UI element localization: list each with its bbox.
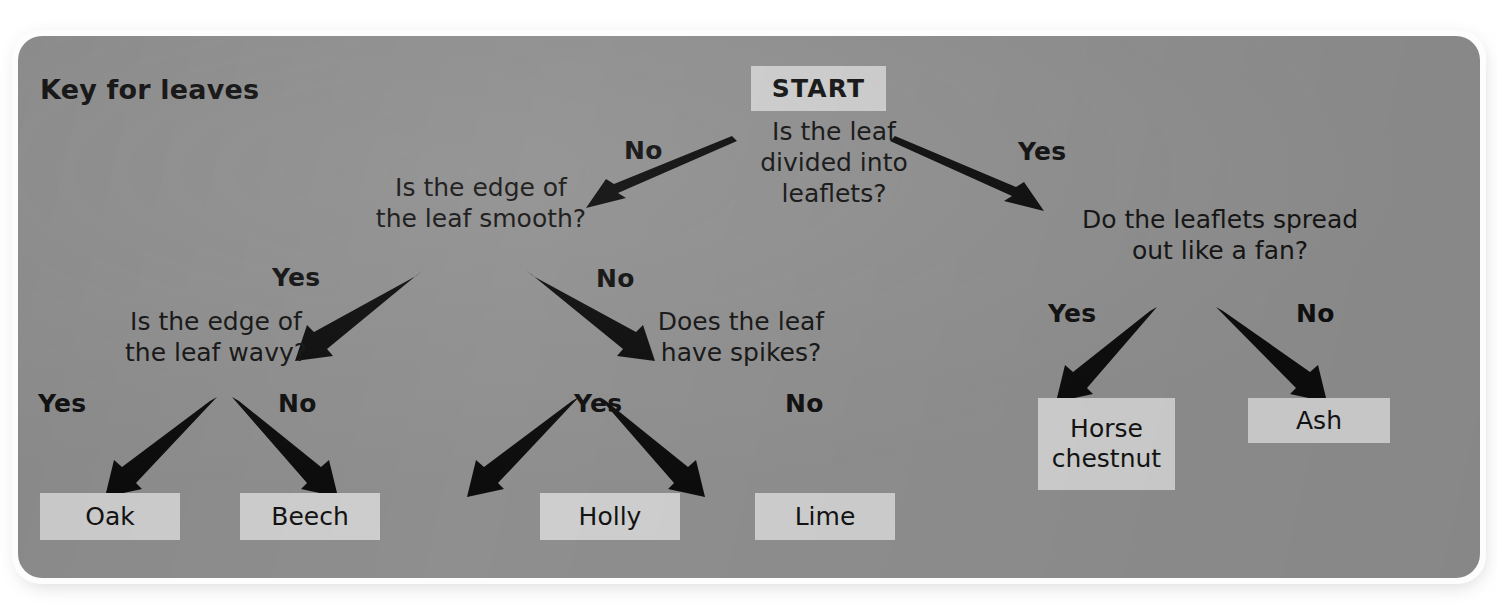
diagram-panel: Key for leaves START Is the leaf divided… <box>18 36 1480 578</box>
page-title: Key for leaves <box>40 74 259 105</box>
result-lime: Lime <box>755 493 895 540</box>
branch-label-q4-no: No <box>278 389 317 418</box>
branch-label-q1-no: No <box>624 136 663 165</box>
question-leaf-have-spikes: Does the leaf have spikes? <box>631 306 851 368</box>
result-horse-chestnut: Horse chestnut <box>1038 398 1175 490</box>
result-ash: Ash <box>1248 398 1390 443</box>
branch-label-q3-yes: Yes <box>1048 299 1097 328</box>
arrow-q4-to-oak <box>105 397 217 497</box>
start-badge: START <box>751 66 886 111</box>
result-beech: Beech <box>240 493 380 540</box>
branch-label-q2-no: No <box>596 264 635 293</box>
branch-label-q5-no: No <box>785 389 824 418</box>
question-leaf-divided-into-leaflets: Is the leaf divided into leaflets? <box>734 116 934 209</box>
branch-label-q3-no: No <box>1296 299 1335 328</box>
branch-label-q5-yes: Yes <box>574 389 623 418</box>
question-leaf-edge-wavy: Is the edge of the leaf wavy? <box>96 306 336 368</box>
branch-label-q2-yes: Yes <box>272 263 321 292</box>
question-leaflets-spread-like-fan: Do the leaflets spread out like a fan? <box>1050 204 1390 266</box>
branch-label-q4-yes: Yes <box>38 389 87 418</box>
key-for-leaves-poster: Key for leaves START Is the leaf divided… <box>0 0 1497 607</box>
result-oak: Oak <box>40 493 180 540</box>
arrow-q5-to-holly <box>467 397 579 497</box>
question-leaf-edge-smooth: Is the edge of the leaf smooth? <box>361 172 601 234</box>
result-holly: Holly <box>540 493 680 540</box>
branch-label-q1-yes: Yes <box>1018 137 1067 166</box>
